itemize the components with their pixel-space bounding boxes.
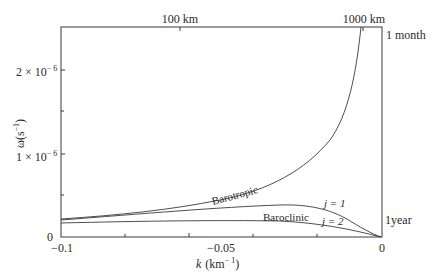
x-tick-label-0: 0 — [379, 241, 385, 255]
barotropic-curve — [61, 27, 361, 219]
top-label-100km: 100 km — [162, 12, 199, 26]
y-tick-label-1e-6: 1 × 10− 6 — [16, 149, 57, 164]
annotation-baroclinic: Baroclinic — [263, 211, 309, 223]
x-tick-label-neg0.05: −0.05 — [207, 241, 235, 255]
annotation-barotropic: Barotropic — [210, 183, 259, 207]
y-axis-ticks — [61, 27, 363, 237]
y-tick-label-2e-6: 2 × 10− 6 — [16, 64, 57, 79]
annotation-j1: j = 1 — [322, 197, 345, 209]
right-label-1-year: 1year — [385, 213, 412, 227]
y-axis-label: ω(s−1) — [12, 119, 27, 148]
annotation-j2: j = 2 — [320, 215, 344, 227]
dispersion-chart: 0 1 × 10− 6 2 × 10− 6 ω(s−1) −0.1 −0.05 … — [0, 0, 439, 279]
x-tick-label-neg0.1: −0.1 — [51, 241, 73, 255]
x-axis-label: k(km− 1) — [196, 256, 239, 271]
right-label-1-month: 1 month — [386, 28, 426, 42]
top-label-1000km: 1000 km — [343, 12, 386, 26]
